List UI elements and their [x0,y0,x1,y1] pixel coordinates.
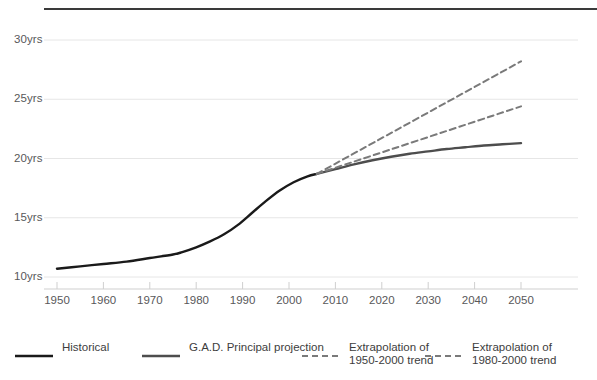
x-tick-label: 1980 [171,294,221,306]
x-tick-label: 2040 [450,294,500,306]
y-tick-label: 15yrs [14,211,43,223]
chart-plot-area [0,0,597,380]
series-line-4 [317,61,521,174]
x-tick-label: 2000 [264,294,314,306]
legend-label-line2: 1950-2000 trend [349,354,433,367]
series-line-1 [57,174,317,269]
y-tick-label: 25yrs [14,92,43,104]
series-layer [57,61,521,268]
x-tick-label: 1970 [125,294,175,306]
x-tick-label: 2010 [310,294,360,306]
legend-label: Extrapolation of1950-2000 trend [349,341,433,367]
x-tick-label: 2030 [403,294,453,306]
y-tick-label: 30yrs [14,33,43,45]
legend-swatch-dashed [424,346,464,364]
legend-swatch-solid [141,346,181,364]
x-tick-label: 1960 [78,294,128,306]
series-line-3 [317,106,521,174]
legend-label-line2: 1980-2000 trend [472,354,556,367]
legend-swatch-solid [14,346,54,364]
chart-container: 30yrs25yrs20yrs15yrs10yrs 19501960197019… [0,0,597,380]
y-tick-label: 20yrs [14,152,43,164]
x-axis [44,282,578,289]
x-tick-label: 2020 [357,294,407,306]
legend-swatch-dashed [301,346,341,364]
x-tick-label: 1990 [218,294,268,306]
legend-label: Historical [62,341,109,354]
y-tick-label: 10yrs [14,270,43,282]
chart-legend: HistoricalG.A.D. Principal projectionExt… [14,340,594,378]
x-tick-label: 1950 [32,294,82,306]
legend-label: Extrapolation of1980-2000 trend [472,341,556,367]
x-tick-label: 2050 [496,294,546,306]
gridlines [44,40,578,277]
